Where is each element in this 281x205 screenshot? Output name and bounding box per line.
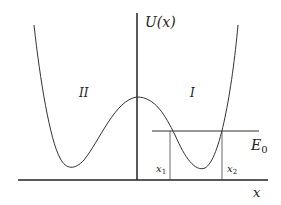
y-axis-label: U(x) (145, 14, 176, 30)
region-right-label: I (189, 86, 195, 100)
potential-curve (34, 25, 238, 169)
energy-label: E0 (250, 137, 268, 155)
double-well-diagram: U(x) x II I E0 x1 x2 (0, 0, 281, 205)
region-left-label: II (78, 86, 89, 100)
turning-point-1-label: x1 (156, 163, 166, 176)
x-axis-label: x (253, 185, 261, 200)
turning-point-2-label: x2 (227, 163, 237, 176)
